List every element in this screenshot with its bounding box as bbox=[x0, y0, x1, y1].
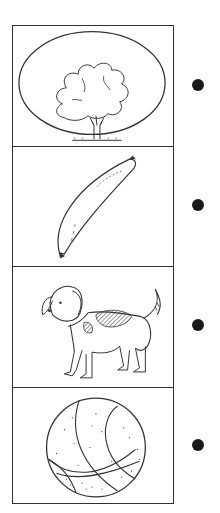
ball-icon bbox=[13, 388, 173, 505]
match-dot-3[interactable] bbox=[192, 319, 204, 331]
tree-icon bbox=[13, 26, 173, 146]
match-dot-4[interactable] bbox=[192, 439, 204, 451]
match-dot-2[interactable] bbox=[192, 199, 204, 211]
banana-icon bbox=[13, 147, 173, 266]
dog-icon bbox=[13, 267, 173, 387]
match-dot-1[interactable] bbox=[192, 79, 204, 91]
panel-tree[interactable]: tree bbox=[13, 26, 173, 146]
panel-banana[interactable]: banana bbox=[13, 146, 173, 266]
picture-column: tree banana dog bbox=[12, 25, 174, 504]
panel-dog[interactable]: dog bbox=[13, 266, 173, 387]
panel-ball[interactable]: ball bbox=[13, 387, 173, 505]
